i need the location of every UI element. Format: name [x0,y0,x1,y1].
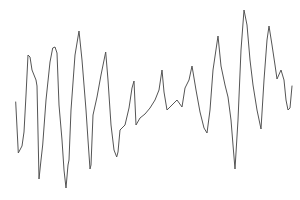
waveform-chart [0,0,300,200]
waveform-line [16,10,292,188]
